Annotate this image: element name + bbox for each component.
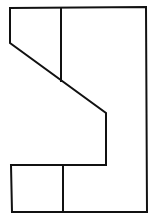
line-drawing [0,0,155,217]
outer-outline [10,7,147,212]
inner-lines [61,8,63,212]
